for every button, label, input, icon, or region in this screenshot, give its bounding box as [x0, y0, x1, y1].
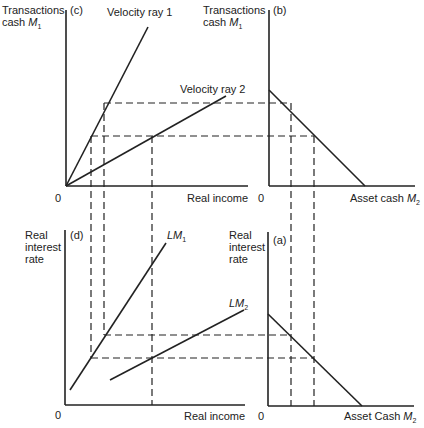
panel-c-ylabel: Transactionscash M1 [2, 4, 65, 33]
panel-c-tag: (c) [70, 4, 83, 16]
lm1-label: LM1 [167, 229, 186, 246]
panel-b-tag: (b) [273, 4, 286, 16]
panel-a-origin: 0 [258, 410, 264, 422]
lm2-label: LM2 [229, 297, 248, 314]
panel-c-xlabel: Real income [187, 192, 248, 204]
panel-d-xlabel: Real income [184, 410, 245, 422]
panel-d-tag: (d) [70, 229, 83, 241]
dashed-guides [91, 103, 314, 406]
panel-d-ylabel: Realinterestrate [25, 229, 61, 265]
four-quadrant-diagram [0, 0, 424, 428]
panel-b-origin: 0 [258, 192, 264, 204]
panel-a-ylabel: Realinterestrate [229, 229, 265, 265]
panel-c-origin: 0 [55, 192, 61, 204]
panel-d-origin: 0 [55, 409, 61, 421]
panel-b-ylabel: Transactionscash M1 [203, 4, 266, 33]
panel-b-xlabel: Asset cash M2 [350, 192, 420, 209]
panel-a-xlabel: Asset Cash M2 [344, 410, 416, 427]
velocity-ray-1-label: Velocity ray 1 [107, 6, 172, 18]
panel-b-curve [269, 90, 365, 186]
lm2-line [110, 310, 244, 380]
panel-a-tag: (a) [273, 234, 286, 246]
velocity-ray-2-label: Velocity ray 2 [180, 83, 245, 95]
panel-a-curve [268, 314, 362, 406]
